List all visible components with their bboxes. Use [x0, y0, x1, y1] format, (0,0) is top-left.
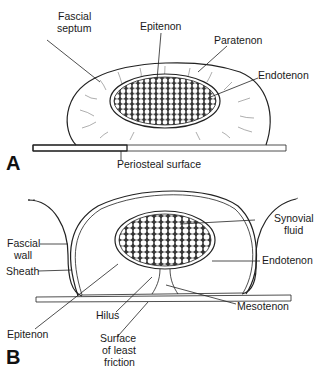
label-fascial-wall-2: wall: [13, 249, 32, 261]
panel-letter-a: A: [6, 152, 20, 174]
label-hilus: Hilus: [96, 309, 119, 321]
mesotenon: [152, 269, 178, 294]
label-synovial-fluid-2: fluid: [284, 224, 303, 236]
panel-b: Fascial wall Sheath Synovial fluid Endot…: [6, 191, 314, 368]
label-endotenon-a: Endotenon: [258, 69, 309, 81]
label-surface-2: of least: [102, 344, 136, 356]
label-surface-1: Surface: [100, 332, 136, 344]
leader-epitenon-a: [157, 33, 161, 80]
label-paratenon: Paratenon: [214, 34, 263, 46]
label-sheath: Sheath: [6, 265, 39, 277]
label-endotenon-b: Endotenon: [262, 254, 313, 266]
label-fascial-wall-1: Fascial: [7, 237, 40, 249]
periosteal-surface-bar: [33, 145, 127, 151]
label-periosteal-surface: Periosteal surface: [117, 158, 201, 170]
bone-surface: [33, 145, 286, 151]
label-epitenon-b: Epitenon: [7, 328, 49, 340]
leader-surface: [118, 302, 148, 336]
label-surface-3: friction: [104, 356, 135, 368]
label-fascial-septum-1: Fascial: [58, 10, 91, 22]
panel-a: Fascial septum Epitenon Paratenon Endote…: [6, 10, 309, 174]
tendon-fascicles: [114, 77, 216, 125]
leader-sheath: [38, 270, 72, 271]
sheath-floor: [82, 293, 243, 295]
tendon-fascicles-b: [119, 214, 211, 266]
wall-continuation-right: [296, 197, 300, 199]
panel-letter-b: B: [6, 346, 20, 368]
label-epitenon-a: Epitenon: [140, 20, 182, 32]
label-synovial-fluid-1: Synovial: [274, 212, 314, 224]
tendon-anatomy-diagram: Fascial septum Epitenon Paratenon Endote…: [0, 0, 319, 370]
leader-paratenon: [198, 46, 227, 72]
leader-fascial-septum: [47, 40, 100, 82]
label-mesotenon: Mesotenon: [237, 300, 289, 312]
leader-endotenon-a: [208, 78, 258, 98]
label-fascial-septum-2: septum: [57, 22, 92, 34]
